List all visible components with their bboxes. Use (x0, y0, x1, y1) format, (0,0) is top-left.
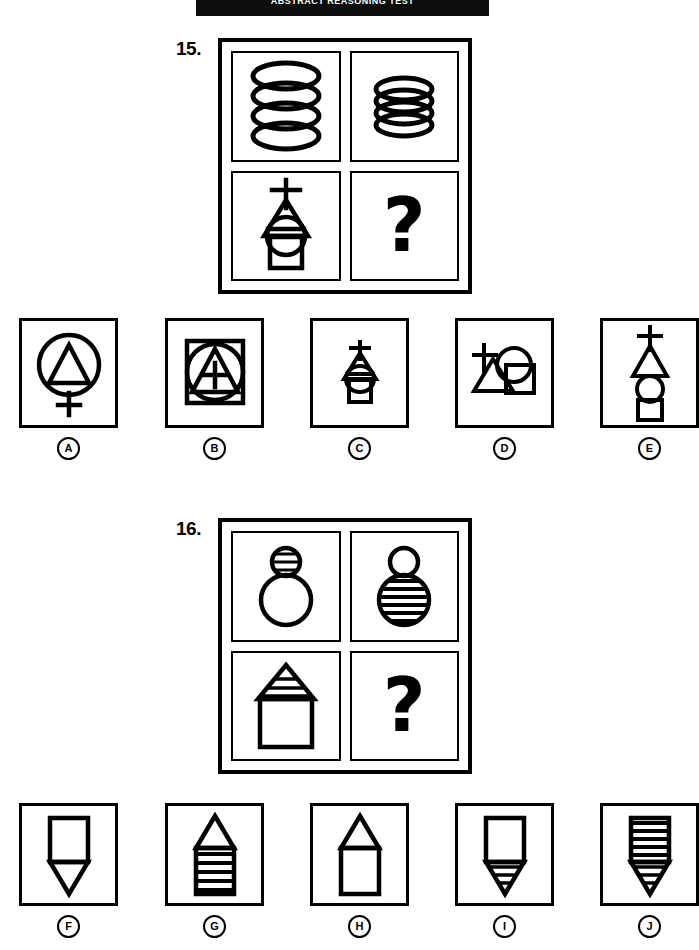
matrix-cell-16-top-right (350, 531, 460, 642)
option-H-box[interactable] (310, 803, 409, 906)
option-G[interactable]: G (165, 803, 264, 938)
matrix-cell-15-top-right (350, 51, 460, 162)
options-row-question-15: A B (0, 318, 681, 460)
plain-roof-plain-square-icon (329, 812, 391, 898)
matrix-question-15: ? (218, 38, 472, 294)
question-number-15: 15. (176, 38, 201, 60)
page-header-banner: ABSTRACT REASONING TEST (196, 0, 489, 16)
option-F-box[interactable] (19, 803, 118, 906)
scattered-shapes-icon (466, 337, 544, 409)
compressed-figure-icon (332, 339, 388, 407)
option-F-badge: F (57, 915, 80, 938)
striped-square-striped-down-triangle-icon (619, 812, 681, 898)
plain-roof-striped-square-icon (184, 812, 246, 898)
cross-triangle-circle-square-compressed-icon (240, 174, 332, 278)
option-I-box[interactable] (455, 803, 554, 906)
option-G-box[interactable] (165, 803, 264, 906)
option-D-box[interactable] (455, 318, 554, 428)
matrix-cell-16-top-left (231, 531, 341, 642)
square-circle-triangle-cross-icon (174, 331, 256, 415)
compressed-coil-spiral-icon (358, 56, 450, 156)
stacked-expanded-figure-icon (621, 324, 679, 422)
option-D-badge: D (493, 437, 516, 460)
striped-roof-plain-square-icon (246, 657, 326, 755)
tall-coil-spiral-icon (240, 56, 332, 156)
option-A-badge: A (57, 437, 80, 460)
option-I-badge: I (493, 915, 516, 938)
question-mark-15: ? (383, 194, 426, 257)
option-J[interactable]: J (600, 803, 699, 938)
banner-title: ABSTRACT REASONING TEST (196, 0, 489, 9)
matrix-question-16: ? (218, 518, 472, 774)
option-B-badge: B (203, 437, 226, 460)
plain-small-circle-over-striped-circle-icon (360, 536, 448, 636)
plain-square-striped-down-triangle-icon (474, 812, 536, 898)
plain-square-plain-down-triangle-icon (38, 812, 100, 898)
option-E-badge: E (638, 437, 661, 460)
matrix-cell-15-top-left (231, 51, 341, 162)
option-C-badge: C (348, 437, 371, 460)
question-mark-16: ? (383, 674, 426, 737)
option-H-badge: H (348, 915, 371, 938)
matrix-cell-16-bottom-left (231, 651, 341, 762)
option-J-box[interactable] (600, 803, 699, 906)
option-C-box[interactable] (310, 318, 409, 428)
striped-small-circle-over-plain-circle-icon (242, 536, 330, 636)
option-J-badge: J (638, 915, 661, 938)
option-G-badge: G (203, 915, 226, 938)
option-D[interactable]: D (455, 318, 554, 460)
matrix-cell-15-answer-slot[interactable]: ? (350, 171, 460, 282)
option-C[interactable]: C (310, 318, 409, 460)
question-number-16: 16. (176, 518, 201, 540)
option-B-box[interactable] (165, 318, 264, 428)
option-A-box[interactable] (19, 318, 118, 428)
option-H[interactable]: H (310, 803, 409, 938)
option-E-box[interactable] (600, 318, 699, 428)
option-A[interactable]: A (19, 318, 118, 460)
matrix-cell-15-bottom-left (231, 171, 341, 282)
circle-triangle-cross-below-icon (29, 327, 109, 419)
option-I[interactable]: I (455, 803, 554, 938)
matrix-cell-16-answer-slot[interactable]: ? (350, 651, 460, 762)
options-row-question-16: F G (0, 803, 681, 938)
option-E[interactable]: E (600, 318, 699, 460)
option-B[interactable]: B (165, 318, 264, 460)
option-F[interactable]: F (19, 803, 118, 938)
